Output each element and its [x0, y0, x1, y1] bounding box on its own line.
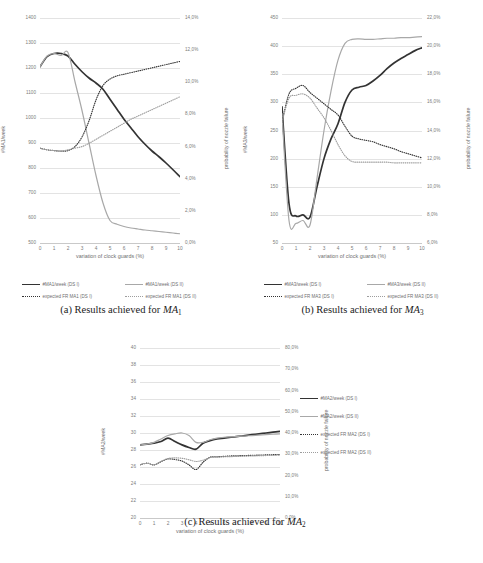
y-axis-left-tick: 350	[246, 71, 278, 76]
legend-key-icon	[300, 434, 318, 435]
y-axis-left-tick: 40	[104, 345, 136, 350]
legend-label: #MA1/week (DS II)	[146, 282, 184, 287]
x-axis-tick: 2	[62, 246, 74, 251]
y-axis-left-tick: 450	[246, 15, 278, 20]
legend-key-icon	[367, 296, 385, 297]
y-axis-left-tick: 32	[104, 413, 136, 418]
y-axis-right-tick: 12,0%	[185, 47, 219, 52]
y-axis-right-tick: 10,0%	[185, 79, 219, 84]
legend-label: expected FR MA3 (DS I)	[285, 294, 334, 299]
legend-label: #MA2/week (DS I)	[321, 396, 358, 401]
legend-label: expected FR MA1 (DS II)	[146, 294, 197, 299]
y-axis-left-tick: 28	[104, 447, 136, 452]
x-axis-line	[40, 243, 180, 244]
y-axis-left-tick: 150	[246, 184, 278, 189]
y-axis-left-tick: 800	[4, 165, 36, 170]
legend-item: #MA1/week (DS II)	[125, 282, 184, 287]
legend-item: #MA1/week (DS I)	[22, 282, 79, 287]
x-axis-tick: 9	[402, 246, 414, 251]
subfigure-ma2: 20222426283032343638400,0%10,0%20,0%30,0…	[100, 336, 390, 563]
y-axis-left-tick: 1400	[4, 15, 36, 20]
legend-item: expected FR MA2 (DS II)	[300, 450, 371, 455]
legend-label: #MA1/week (DS I)	[43, 282, 80, 287]
legend-item: #MA3/week (DS I)	[264, 282, 321, 287]
y-axis-left-tick: 34	[104, 396, 136, 401]
legend-key-icon	[125, 284, 143, 285]
y-axis-left-tick: 100	[246, 212, 278, 217]
legend-key-icon	[300, 416, 318, 417]
legend-label: expected FR MA2 (DS I)	[321, 432, 370, 437]
y-axis-left-tick: 1200	[4, 65, 36, 70]
x-axis-tick: 5	[104, 246, 116, 251]
y-axis-right-tick: 8,0%	[427, 212, 461, 217]
y-axis-right-tick: 20,0%	[427, 43, 461, 48]
subfigure-ma3: 501001502002503003504004506,0%8,0%10,0%1…	[242, 4, 483, 334]
legend-item: expected FR MA1 (DS II)	[125, 294, 196, 299]
y-axis-left-tick: 50	[246, 240, 278, 245]
series-line	[140, 455, 280, 465]
legend-label: #MA2/week (DS II)	[321, 414, 359, 419]
y-axis-right-tick: 10,0%	[427, 184, 461, 189]
series-line	[40, 53, 180, 177]
legend-key-icon	[300, 452, 318, 453]
legend-key-icon	[264, 296, 282, 297]
y-axis-left-tick: 500	[4, 240, 36, 245]
x-axis-tick: 0	[276, 246, 288, 251]
y-axis-left-tick: 26	[104, 464, 136, 469]
x-axis-tick: 4	[332, 246, 344, 251]
legend-key-icon	[22, 284, 40, 285]
y-axis-left-tick: 400	[246, 43, 278, 48]
legend-item: expected FR MA3 (DS II)	[367, 294, 438, 299]
series-layer	[282, 18, 422, 243]
y-axis-left-tick: 36	[104, 379, 136, 384]
caption-subscript: 3	[420, 309, 424, 317]
y-axis-left-tick: 700	[4, 190, 36, 195]
x-axis-tick: 0	[34, 246, 46, 251]
caption-subscript: 1	[178, 309, 182, 317]
series-line	[40, 97, 180, 151]
y-axis-right-tick: 14,0%	[427, 128, 461, 133]
legend-key-icon	[22, 296, 40, 297]
caption-prefix: (a) Results achieved for	[60, 304, 163, 315]
x-axis-tick: 10	[174, 246, 186, 251]
y-axis-right-tick: 8,0%	[185, 111, 219, 116]
y-axis-right-tick: 50,0%	[285, 409, 319, 414]
y-axis-left-title: #MA2/week	[100, 428, 106, 455]
subfigure-caption: (a) Results achieved for MA1	[0, 304, 242, 315]
series-line	[140, 454, 280, 469]
y-axis-right-tick: 16,0%	[427, 99, 461, 104]
caption-prefix: (c) Results achieved for	[184, 516, 287, 527]
y-axis-left-tick: 30	[104, 430, 136, 435]
caption-symbol: MA	[163, 304, 178, 315]
caption-prefix: (b) Results achieved for	[302, 304, 405, 315]
x-axis-title: variation of clock guards (%)	[140, 528, 280, 534]
subfigure-caption: (b) Results achieved for MA3	[242, 304, 483, 315]
series-layer	[140, 348, 280, 518]
legend-item: expected FR MA3 (DS I)	[264, 294, 334, 299]
subfigure-ma1: 500600700800900100011001200130014000,0%2…	[0, 4, 242, 334]
legend-item: #MA2/week (DS II)	[300, 414, 359, 419]
legend-key-icon	[300, 398, 318, 399]
y-axis-right-tick: 20,0%	[285, 473, 319, 478]
legend-item: expected FR MA1 (DS I)	[22, 294, 92, 299]
y-axis-left-tick: 600	[4, 215, 36, 220]
legend-label: expected FR MA1 (DS I)	[43, 294, 92, 299]
y-axis-left-tick: 38	[104, 362, 136, 367]
series-line	[282, 48, 422, 219]
y-axis-right-tick: 4,0%	[185, 176, 219, 181]
y-axis-right-tick: 10,0%	[285, 494, 319, 499]
y-axis-right-tick: 80,0%	[285, 345, 319, 350]
y-axis-left-tick: 22	[104, 498, 136, 503]
x-axis-tick: 10	[416, 246, 428, 251]
legend-item: #MA3/week (DS II)	[367, 282, 426, 287]
y-axis-left-tick: 300	[246, 99, 278, 104]
y-axis-right-tick: 0,0%	[185, 240, 219, 245]
y-axis-right-tick: 6,0%	[427, 240, 461, 245]
x-axis-tick: 6	[360, 246, 372, 251]
y-axis-left-tick: 900	[4, 140, 36, 145]
plot-area-ma2	[140, 348, 280, 518]
legend-label: expected FR MA2 (DS II)	[321, 450, 372, 455]
series-line	[282, 37, 422, 230]
y-axis-right-tick: 14,0%	[185, 15, 219, 20]
x-axis-tick: 8	[388, 246, 400, 251]
